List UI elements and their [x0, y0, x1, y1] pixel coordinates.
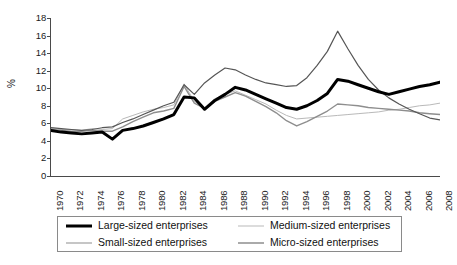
y-axis-tick-label: 10	[26, 83, 46, 92]
legend-item-large-sized-enterprises[interactable]: Large-sized enterprises	[58, 217, 230, 234]
x-axis-tick-label: 1980	[157, 191, 167, 211]
x-axis-tick-label: 1982	[178, 191, 188, 211]
legend-item-label: Small-sized enterprises	[98, 237, 207, 248]
legend-item-label: Large-sized enterprises	[98, 220, 208, 231]
y-axis-tick-label: 6	[26, 118, 46, 127]
x-axis-tick-label: 2006	[424, 191, 434, 211]
y-axis-tick-label: 18	[26, 13, 46, 22]
y-axis-title: %	[6, 79, 17, 88]
x-axis-tick-labels: 1970197219741976197819801982198419861988…	[51, 177, 441, 213]
series-lines	[51, 18, 440, 176]
legend-item-label: Medium-sized enterprises	[270, 220, 390, 231]
y-axis-tick-label: 8	[26, 101, 46, 110]
x-axis-tick-label: 1974	[96, 191, 106, 211]
y-axis-tick-label: 12	[26, 66, 46, 75]
chart-figure: % 181614121086420 1970197219741976197819…	[0, 0, 457, 265]
x-axis-tick-label: 1994	[301, 191, 311, 211]
x-axis-tick-label: 1972	[75, 191, 85, 211]
x-axis-tick-label: 1990	[260, 191, 270, 211]
line-swatch-icon	[238, 221, 264, 231]
legend-item-micro-sized-enterprises[interactable]: Micro-sized enterprises	[230, 234, 402, 251]
x-axis-tick-label: 1988	[239, 191, 249, 211]
x-axis-tick-label: 1976	[116, 191, 126, 211]
x-axis-tick-label: 1998	[342, 191, 352, 211]
y-axis-tick-label: 4	[26, 136, 46, 145]
line-swatch-icon	[66, 221, 92, 231]
series-line	[51, 31, 440, 130]
legend-item-medium-sized-enterprises[interactable]: Medium-sized enterprises	[230, 217, 402, 234]
x-axis-tick-label: 2008	[444, 191, 454, 211]
x-axis-tick-label: 1996	[321, 191, 331, 211]
line-swatch-icon	[66, 238, 92, 248]
x-axis-tick-label: 2000	[362, 191, 372, 211]
x-axis-tick-label: 1978	[137, 191, 147, 211]
x-axis-tick-label: 1986	[219, 191, 229, 211]
x-axis-tick-label: 1992	[280, 191, 290, 211]
x-axis-tick-label: 2002	[383, 191, 393, 211]
legend: Large-sized enterprises Medium-sized ent…	[57, 216, 402, 252]
y-axis-tick-label: 0	[26, 171, 46, 180]
legend-item-label: Micro-sized enterprises	[270, 237, 379, 248]
line-swatch-icon	[238, 238, 264, 248]
legend-item-small-sized-enterprises[interactable]: Small-sized enterprises	[58, 234, 230, 251]
y-axis-tick-labels: 181614121086420	[26, 0, 46, 265]
x-axis-tick-label: 2004	[403, 191, 413, 211]
x-axis-tick-label: 1984	[198, 191, 208, 211]
plot-area	[51, 18, 440, 176]
y-axis-tick-label: 14	[26, 48, 46, 57]
y-axis-tick-label: 2	[26, 153, 46, 162]
y-axis-tick-label: 16	[26, 31, 46, 40]
x-axis-tick-label: 1970	[55, 191, 65, 211]
